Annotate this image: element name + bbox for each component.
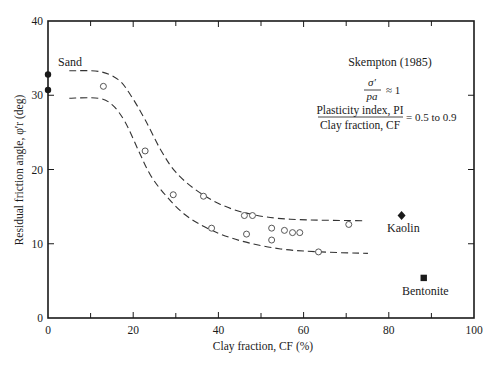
sand-marker <box>45 87 51 93</box>
test-data-marker <box>297 230 303 236</box>
x-axis-label: Clay fraction, CF (%) <box>213 340 313 353</box>
data-points <box>45 71 427 281</box>
x-tick-label: 80 <box>383 324 395 336</box>
test-data-marker <box>290 230 296 236</box>
source-label: Skempton (1985) <box>348 55 432 69</box>
bentonite-label: Bentonite <box>402 284 449 298</box>
upper-bound-curve <box>69 71 365 221</box>
ratio-denominator: pa <box>366 90 379 102</box>
sand-marker <box>45 71 51 77</box>
test-data-marker <box>241 213 247 219</box>
y-tick-label: 20 <box>32 164 44 176</box>
x-tick-label: 20 <box>127 324 139 336</box>
kaolin-marker <box>398 211 406 220</box>
x-tick-label: 60 <box>298 324 310 336</box>
sand-label: Sand <box>58 55 82 69</box>
test-data-marker <box>249 213 255 219</box>
y-tick-label: 40 <box>32 15 44 27</box>
test-data-marker <box>281 227 287 233</box>
bound-curves <box>69 71 368 254</box>
y-axis-label: Residual friction angle, φ′r (deg) <box>13 95 26 246</box>
chart: 020406080100010203040 Clay fraction, CF … <box>0 0 495 365</box>
test-data-marker <box>170 192 176 198</box>
y-tick-label: 30 <box>32 89 44 101</box>
pi-value: = 0.5 to 0.9 <box>406 111 457 123</box>
test-data-marker <box>346 221 352 227</box>
bentonite-marker <box>421 275 427 281</box>
pi-denominator: Clay fraction, CF <box>320 119 400 132</box>
skempton-annotation: Skempton (1985) σ′ pa ≈ 1 Plasticity ind… <box>316 55 457 132</box>
ratio-numerator: σ′ <box>368 76 376 88</box>
y-tick-label: 0 <box>37 312 43 324</box>
x-tick-label: 100 <box>465 324 483 336</box>
pi-numerator: Plasticity index, PI <box>316 104 403 117</box>
test-data-marker <box>200 193 206 199</box>
test-data-marker <box>269 237 275 243</box>
ratio-value: ≈ 1 <box>386 84 400 96</box>
x-tick-label: 0 <box>45 324 51 336</box>
test-data-marker <box>244 231 250 237</box>
test-data-marker <box>316 249 322 255</box>
y-tick-label: 10 <box>32 238 44 250</box>
x-tick-label: 40 <box>213 324 225 336</box>
test-data-marker <box>100 83 106 89</box>
test-data-marker <box>142 148 148 154</box>
test-data-marker <box>269 225 275 231</box>
test-data-marker <box>209 225 215 231</box>
kaolin-label: Kaolin <box>387 221 420 235</box>
